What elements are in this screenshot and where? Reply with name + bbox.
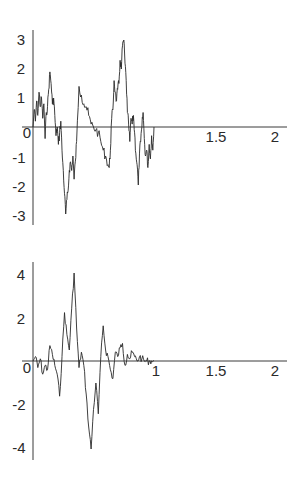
bottom-x-tick-label: 2 bbox=[271, 362, 279, 379]
top-y-tick-label: -1 bbox=[12, 149, 25, 166]
bottom-y-tick-label: -4 bbox=[12, 439, 25, 456]
bottom-y-tick-label: 4 bbox=[17, 266, 25, 283]
bottom-y-tick-label: -2 bbox=[12, 396, 25, 413]
top-x-tick-label: 1.5 bbox=[206, 128, 227, 145]
top-y-tick-label: 2 bbox=[17, 60, 25, 77]
top-y-tick-label: 0 bbox=[23, 124, 31, 141]
figure: 3 2 1 0 -1 -2 -3 1.5 2 4 2 0 -2 -4 1 1.5… bbox=[0, 0, 306, 481]
top-y-tick-label: -2 bbox=[12, 178, 25, 195]
top-chart: 3 2 1 0 -1 -2 -3 1.5 2 bbox=[12, 30, 287, 225]
top-y-tick-label: 3 bbox=[17, 31, 25, 48]
bottom-y-tick-label: 0 bbox=[23, 359, 31, 376]
bottom-x-tick-label: 1 bbox=[152, 362, 160, 379]
bottom-chart: 4 2 0 -2 -4 1 1.5 2 bbox=[12, 262, 287, 460]
top-x-tick-label: 2 bbox=[271, 128, 279, 145]
top-y-tick-label: -3 bbox=[12, 207, 25, 224]
bottom-x-tick-label: 1.5 bbox=[206, 362, 227, 379]
bottom-y-tick-label: 2 bbox=[17, 310, 25, 327]
top-y-tick-label: 1 bbox=[17, 89, 25, 106]
